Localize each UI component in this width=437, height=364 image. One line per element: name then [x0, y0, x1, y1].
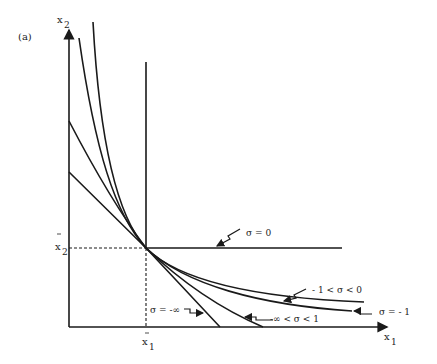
pointer-sigma-zero	[217, 229, 240, 246]
svg-text:x: x	[57, 14, 63, 25]
svg-text:1: 1	[149, 342, 155, 352]
label-sigma-minus-inf-to-1: -∞ < σ < 1	[270, 314, 319, 324]
panel-label: (a)	[18, 31, 32, 42]
label-sigma-between-minus1-and-0: - 1 < σ < 0	[312, 285, 362, 295]
svg-text:x: x	[142, 336, 148, 347]
label-sigma-zero: σ = 0	[246, 228, 271, 238]
svg-text:x: x	[55, 241, 61, 252]
pointer-sigma-minus-inf-to-1	[245, 317, 273, 320]
isoquant-sigma-between-minus1-and-0	[93, 22, 364, 302]
isoquant-sigma-minus-inf	[69, 172, 220, 327]
svg-text:2: 2	[64, 20, 70, 30]
isoquant-sigma-minus1	[79, 38, 352, 311]
x-axis-label: x 1	[384, 331, 397, 347]
isoquant-sigma-minus-inf-to-1	[69, 121, 263, 327]
ces-isoquant-diagram: (a) x 2 x 1 x 2 x 1 σ = 0 - 1 < σ < 0 σ …	[0, 0, 437, 364]
y-axis-label: x 2	[57, 14, 70, 30]
isoquant-sigma-zero	[146, 62, 342, 248]
x2-bar-label: x 2	[55, 234, 68, 257]
svg-text:2: 2	[62, 247, 68, 257]
pointer-sigma-minus-inf	[184, 309, 203, 313]
pointer-sigma-between-minus1-and-0	[284, 289, 306, 301]
svg-text:x: x	[384, 331, 390, 342]
label-sigma-minus-inf: σ = -∞	[150, 305, 180, 315]
svg-text:1: 1	[391, 337, 397, 347]
label-sigma-minus1: σ = - 1	[379, 307, 410, 317]
pointer-sigma-minus1	[354, 311, 372, 314]
x1-bar-label: x 1	[142, 333, 155, 352]
